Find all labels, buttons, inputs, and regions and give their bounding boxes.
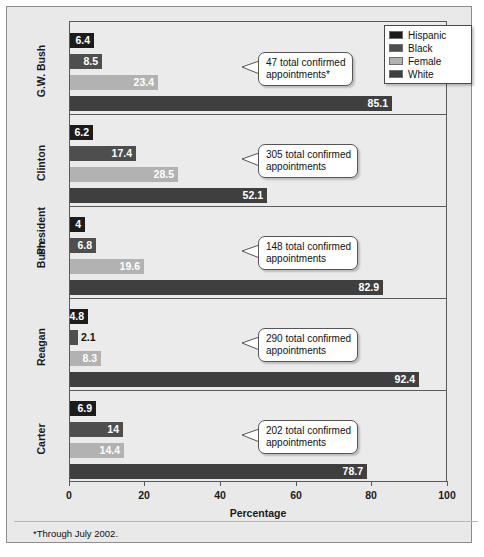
bar-value-bush-female: 19.6 <box>120 259 140 274</box>
legend-item-female: Female <box>389 55 467 67</box>
chart-footnote: *Through July 2002. <box>33 528 118 539</box>
bar-carter-female: 14.4 <box>70 443 124 458</box>
x-axis-line <box>69 481 447 482</box>
bar-value-carter-black: 14 <box>107 422 119 437</box>
bar-value-reagan-female: 8.3 <box>82 351 97 366</box>
y-tick-label-clinton: Clinton <box>35 123 47 203</box>
bar-value-clinton-white: 52.1 <box>243 188 263 203</box>
y-tick-label-carter: Carter <box>35 399 47 479</box>
bar-clinton-white: 52.1 <box>70 188 267 203</box>
bar-g-w-bush-female: 23.4 <box>70 75 158 90</box>
bar-bush-female: 19.6 <box>70 259 144 274</box>
bar-value-reagan-white: 92.4 <box>395 372 415 387</box>
bar-g-w-bush-black: 8.5 <box>70 54 102 69</box>
bar-carter-white: 78.7 <box>70 464 367 479</box>
callout-line-2: appointments <box>266 437 351 449</box>
callout-line-2: appointments <box>266 253 351 265</box>
bar-value-clinton-hispanic: 6.2 <box>74 125 89 140</box>
legend-label-hispanic: Hispanic <box>408 30 446 41</box>
legend-label-female: Female <box>408 56 441 67</box>
legend-item-hispanic: Hispanic <box>389 29 467 41</box>
x-tick-label-60: 60 <box>290 489 302 501</box>
callout-line-1: 148 total confirmed <box>266 241 351 253</box>
bar-reagan-hispanic: 4.8 <box>70 309 88 324</box>
bar-carter-black: 14 <box>70 422 123 437</box>
callout-bush: 148 total confirmed appointments <box>258 236 358 270</box>
callout-line-1: 290 total confirmed <box>266 333 351 345</box>
x-tick-label-0: 0 <box>66 489 72 501</box>
bar-value-bush-black: 6.8 <box>77 238 92 253</box>
legend-item-black: Black <box>389 42 467 54</box>
bar-bush-hispanic: 4 <box>70 217 85 232</box>
callout-line-1: 202 total confirmed <box>266 425 351 437</box>
x-tick-100 <box>447 481 448 486</box>
x-tick-60 <box>296 481 297 486</box>
legend-swatch-white <box>389 70 403 78</box>
bar-clinton-hispanic: 6.2 <box>70 125 93 140</box>
y-tick-label-g-w-bush: G.W. Bush <box>35 31 47 111</box>
bar-value-clinton-female: 28.5 <box>154 167 174 182</box>
bar-value-bush-hispanic: 4 <box>75 217 81 232</box>
bar-clinton-female: 28.5 <box>70 167 178 182</box>
bar-bush-white: 82.9 <box>70 280 383 295</box>
x-tick-label-20: 20 <box>138 489 150 501</box>
bar-bush-black: 6.8 <box>70 238 96 253</box>
bar-value-g-w-bush-black: 8.5 <box>83 54 98 69</box>
y-tick-label-reagan: Reagan <box>35 307 47 387</box>
footnote-divider <box>14 521 478 522</box>
callout-line-2: appointments* <box>266 69 346 81</box>
x-tick-80 <box>371 481 372 486</box>
legend-label-white: White <box>408 69 434 80</box>
legend-item-white: White <box>389 68 467 80</box>
bar-g-w-bush-hispanic: 6.4 <box>70 33 94 48</box>
bar-reagan-black: 2.1 <box>70 330 78 345</box>
bar-value-reagan-black: 2.1 <box>81 330 96 345</box>
x-tick-20 <box>144 481 145 486</box>
x-tick-label-40: 40 <box>214 489 226 501</box>
legend-label-black: Black <box>408 43 432 54</box>
bar-carter-hispanic: 6.9 <box>70 401 96 416</box>
bar-g-w-bush-white: 85.1 <box>70 96 392 111</box>
bar-value-g-w-bush-female: 23.4 <box>134 75 154 90</box>
legend-swatch-female <box>389 57 403 65</box>
bar-clinton-black: 17.4 <box>70 146 136 161</box>
chart-legend: Hispanic Black Female White <box>384 25 472 84</box>
callout-line-1: 47 total confirmed <box>266 57 346 69</box>
bar-value-carter-white: 78.7 <box>343 464 363 479</box>
callout-line-2: appointments <box>266 161 351 173</box>
callout-line-1: 305 total confirmed <box>266 149 351 161</box>
bar-value-carter-hispanic: 6.9 <box>77 401 92 416</box>
legend-swatch-black <box>389 44 403 52</box>
x-tick-label-100: 100 <box>438 489 456 501</box>
bar-value-g-w-bush-hispanic: 6.4 <box>75 33 90 48</box>
bar-value-clinton-black: 17.4 <box>112 146 132 161</box>
bar-value-bush-white: 82.9 <box>359 280 379 295</box>
x-tick-0 <box>69 481 70 486</box>
bar-value-g-w-bush-white: 85.1 <box>368 96 388 111</box>
callout-reagan: 290 total confirmed appointments <box>258 328 358 362</box>
x-tick-40 <box>220 481 221 486</box>
x-tick-label-80: 80 <box>365 489 377 501</box>
legend-swatch-hispanic <box>389 31 403 39</box>
bar-value-carter-female: 14.4 <box>100 443 120 458</box>
callout-clinton: 305 total confirmed appointments <box>258 144 358 178</box>
callout-g-w-bush: 47 total confirmed appointments* <box>258 52 353 86</box>
chart-figure: President G.W. Bush Clinton Bush Reagan … <box>0 0 484 557</box>
plot-area: 6.4 8.5 23.4 85.1 <box>69 21 447 481</box>
callout-carter: 202 total confirmed appointments <box>258 420 358 454</box>
chart-frame: President G.W. Bush Clinton Bush Reagan … <box>6 6 472 543</box>
bar-reagan-female: 8.3 <box>70 351 101 366</box>
bar-reagan-white: 92.4 <box>70 372 419 387</box>
x-axis-title: Percentage <box>69 507 447 519</box>
y-tick-label-bush: Bush <box>35 215 47 295</box>
callout-line-2: appointments <box>266 345 351 357</box>
bar-value-reagan-hispanic: 4.8 <box>69 309 84 324</box>
